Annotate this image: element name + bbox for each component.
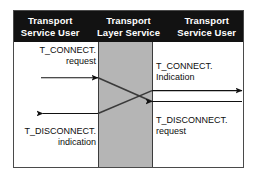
- column-header-transport-layer: Transport Layer Service: [87, 11, 171, 42]
- column-header-transport-layer-line1: Transport: [106, 15, 151, 27]
- label-t-disconnect-indication: T_DISCONNECT. indication: [16, 126, 96, 148]
- label-t-disconnect-indication-line2: indication: [16, 137, 96, 148]
- column-header-right-user: Transport Service User: [171, 11, 244, 42]
- diagonal-connect-propagation: [98, 78, 152, 102]
- label-t-connect-indication-line2: Indication: [156, 72, 213, 83]
- column-header-left-user-line2: Service User: [21, 27, 80, 39]
- transport-service-diagram: Transport Service User Transport Layer S…: [0, 0, 260, 181]
- diagram-body: T_CONNECT. request T_CONNECT. Indication…: [14, 42, 243, 167]
- label-t-disconnect-request-line1: T_DISCONNECT.: [156, 115, 228, 126]
- diagram-frame: Transport Service User Transport Layer S…: [13, 10, 244, 168]
- column-header-right-user-line1: Transport: [184, 15, 229, 27]
- column-header-band: Transport Service User Transport Layer S…: [14, 11, 243, 42]
- label-t-connect-request-line1: T_CONNECT.: [20, 45, 96, 56]
- label-t-disconnect-indication-line1: T_DISCONNECT.: [16, 126, 96, 137]
- label-t-disconnect-request-line2: request: [156, 126, 228, 137]
- column-header-right-user-line2: Service User: [177, 27, 236, 39]
- label-t-connect-request-line2: request: [20, 56, 96, 67]
- column-header-left-user: Transport Service User: [14, 11, 87, 42]
- label-t-connect-indication: T_CONNECT. Indication: [156, 61, 213, 83]
- label-t-disconnect-request: T_DISCONNECT. request: [156, 115, 228, 137]
- diagonal-disconnect-propagation: [98, 91, 152, 114]
- label-t-connect-indication-line1: T_CONNECT.: [156, 61, 213, 72]
- label-t-connect-request: T_CONNECT. request: [20, 45, 96, 67]
- column-header-left-user-line1: Transport: [28, 15, 73, 27]
- column-header-transport-layer-line2: Layer Service: [97, 27, 160, 39]
